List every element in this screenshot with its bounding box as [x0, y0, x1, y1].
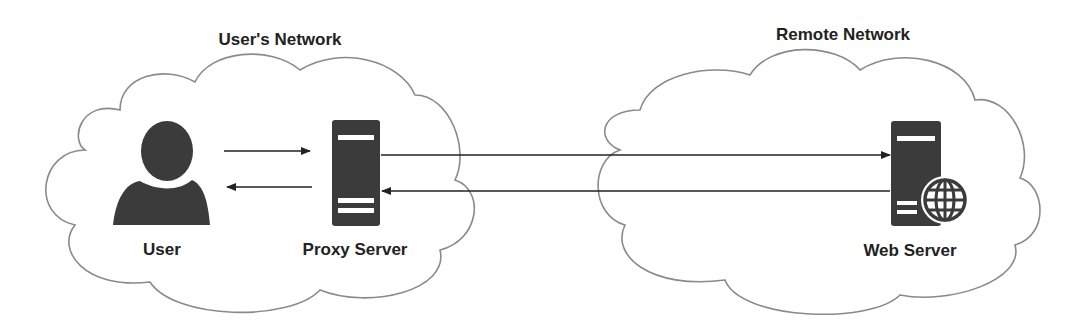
remote-network-title: Remote Network: [776, 25, 911, 44]
server-icon: [332, 120, 380, 226]
network-diagram: User's Network Remote Network User Proxy…: [0, 0, 1074, 329]
remote-network-group: Remote Network: [598, 25, 1040, 314]
web-server-label: Web Server: [863, 241, 957, 260]
users-network-title: User's Network: [218, 30, 342, 49]
remote-network-cloud: [598, 50, 1040, 315]
proxy-server-label: Proxy Server: [303, 240, 408, 259]
users-network-group: User's Network: [46, 30, 474, 312]
users-network-cloud: [46, 54, 474, 312]
user-label: User: [143, 240, 181, 259]
